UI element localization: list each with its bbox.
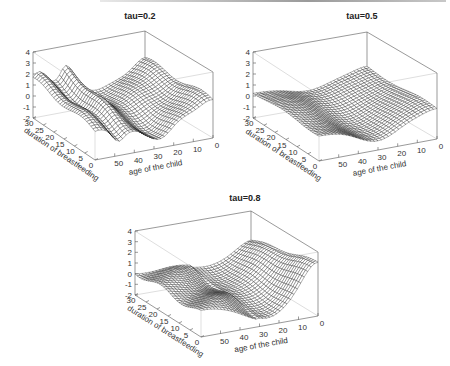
y-tick xyxy=(54,131,57,133)
surface-mesh xyxy=(33,57,213,141)
y-tick xyxy=(146,301,149,303)
box-edge xyxy=(253,32,367,52)
z-tick-label: 3 xyxy=(26,59,31,68)
box-edge xyxy=(367,32,437,73)
y-tick xyxy=(264,124,267,126)
header-bar xyxy=(100,0,446,2)
x-tick-label: 20 xyxy=(173,148,182,157)
z-tick-label: 1 xyxy=(246,81,251,90)
x-tick-label: 30 xyxy=(378,153,387,162)
z-tick-label: 3 xyxy=(246,59,251,68)
z-tick-label: 4 xyxy=(128,227,133,236)
y-axis-label: duration of breastfeeding xyxy=(22,126,100,183)
box-edge xyxy=(33,31,145,52)
x-tick-label: 0 xyxy=(439,142,444,151)
y-tick xyxy=(190,329,193,331)
x-tick-label: 30 xyxy=(259,330,268,339)
x-tick-label: 50 xyxy=(114,159,123,168)
z-tick-label: 4 xyxy=(26,48,31,57)
x-tick-label: 20 xyxy=(279,326,288,335)
y-tick xyxy=(74,145,77,147)
plot-tau-0.8: -2-10123405101520253001020304050tau=0.8d… xyxy=(112,186,342,366)
x-tick-label: 10 xyxy=(193,145,202,154)
y-tick xyxy=(275,131,278,133)
z-tick-label: 1 xyxy=(26,81,31,90)
y-tick xyxy=(286,138,289,140)
plot-title: tau=0.8 xyxy=(229,193,260,203)
x-tick-label: 40 xyxy=(134,156,143,165)
y-tick xyxy=(85,152,88,154)
z-tick-label: -1 xyxy=(125,280,133,289)
plot-title: tau=0.2 xyxy=(124,11,155,21)
y-tick xyxy=(308,152,311,154)
y-tick xyxy=(43,124,46,126)
box-edge xyxy=(253,52,319,95)
y-tick xyxy=(168,315,171,317)
plot-tau-0.5: -2-10123405101520253001020304050tau=0.5d… xyxy=(226,4,450,184)
z-tick-label: 1 xyxy=(128,259,133,268)
z-tick-label: -1 xyxy=(23,103,31,112)
x-tick-label: 10 xyxy=(298,323,307,332)
y-tick xyxy=(157,308,160,310)
x-tick-label: 40 xyxy=(358,157,367,166)
surface-mesh xyxy=(135,240,318,319)
x-tick-label: 0 xyxy=(215,141,220,150)
x-tick-label: 20 xyxy=(397,149,406,158)
y-axis-label: duration of breastfeeding xyxy=(244,127,323,183)
z-tick-label: 3 xyxy=(128,238,133,247)
z-tick-label: 2 xyxy=(246,70,251,79)
surface-mesh xyxy=(253,66,437,141)
x-tick-label: 50 xyxy=(338,160,347,169)
x-tick-label: 30 xyxy=(154,152,163,161)
plot-tau-0.2: -2-10123405101520253001020304050tau=0.2d… xyxy=(0,4,225,184)
x-tick-label: 50 xyxy=(220,337,229,346)
z-tick-label: 2 xyxy=(128,248,133,257)
x-tick-label: 40 xyxy=(240,333,249,342)
z-tick-label: 4 xyxy=(246,48,251,57)
y-axis-label: duration of breastfeeding xyxy=(126,304,205,359)
z-tick-label: 0 xyxy=(26,92,31,101)
plot-title: tau=0.5 xyxy=(346,11,377,21)
z-tick-label: 0 xyxy=(128,270,133,279)
box-edge xyxy=(135,211,251,231)
z-tick-label: -1 xyxy=(243,103,251,112)
y-tick xyxy=(179,322,182,324)
x-tick-label: 10 xyxy=(417,146,426,155)
y-tick xyxy=(297,145,300,147)
y-tick xyxy=(64,138,67,140)
z-tick-label: 2 xyxy=(26,70,31,79)
x-tick-label: 0 xyxy=(320,319,325,328)
z-tick-label: 0 xyxy=(246,92,251,101)
